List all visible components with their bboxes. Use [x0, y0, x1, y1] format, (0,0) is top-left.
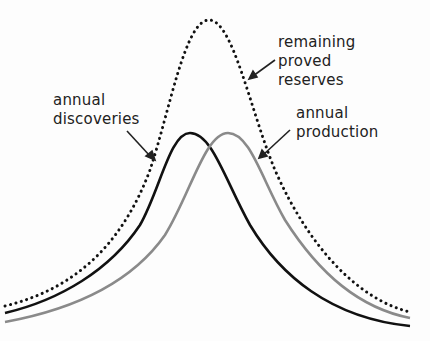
label-annual-production: annual production	[296, 104, 379, 142]
arrow-annual-discoveries	[127, 131, 155, 160]
label-line: production	[296, 123, 379, 142]
annual-production-curve	[5, 133, 410, 322]
label-line: annual	[296, 104, 379, 123]
label-line: remaining	[278, 33, 356, 52]
arrow-remaining-reserves	[249, 60, 275, 79]
arrow-annual-production	[259, 130, 290, 158]
annual-discoveries-curve	[5, 133, 410, 326]
label-remaining-reserves: remaining proved reserves	[278, 33, 356, 90]
label-annual-discoveries: annual discoveries	[53, 91, 140, 129]
curves-diagram	[0, 0, 430, 341]
label-line: proved	[278, 52, 356, 71]
label-line: discoveries	[53, 110, 140, 129]
label-line: annual	[53, 91, 140, 110]
label-line: reserves	[278, 71, 356, 90]
